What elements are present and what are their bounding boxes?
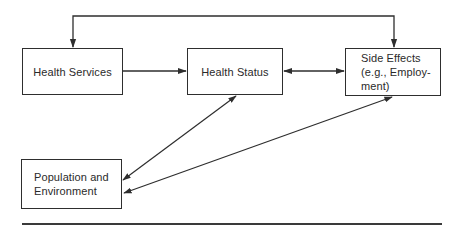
edge-health-status-population bbox=[123, 96, 236, 180]
node-label: Health Status bbox=[201, 65, 268, 79]
node-side-effects: Side Effects (e.g., Employ- ment) bbox=[345, 48, 441, 96]
flow-diagram: Health Services Health Status Side Effec… bbox=[0, 0, 456, 225]
edge-side-effects-population bbox=[124, 97, 392, 193]
node-health-services: Health Services bbox=[22, 48, 123, 95]
node-label: Health Services bbox=[33, 65, 112, 79]
node-population-environment: Population and Environment bbox=[21, 159, 122, 209]
node-label: Side Effects (e.g., Employ- ment) bbox=[361, 51, 431, 93]
node-label: Population and Environment bbox=[34, 170, 109, 198]
bottom-divider bbox=[22, 223, 442, 225]
edge-side-effects-health-services-loop bbox=[73, 16, 394, 47]
node-health-status: Health Status bbox=[187, 48, 283, 95]
